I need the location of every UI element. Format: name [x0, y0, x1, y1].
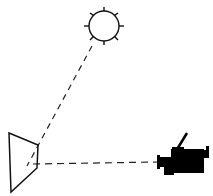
video-camera-icon [157, 133, 209, 175]
sun-to-reflector-dashed-line [27, 46, 92, 166]
lighting-diagram: Lighting setup: sun, reflector, camera [0, 0, 213, 196]
reflector-to-camera-dashed-line [33, 162, 158, 164]
sun-icon [84, 7, 124, 45]
reflector-icon [9, 133, 38, 192]
